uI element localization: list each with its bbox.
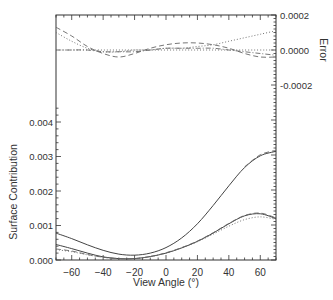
y-tick-label-left: 0.001 — [29, 220, 53, 231]
series-surface-upper-solid — [56, 151, 276, 255]
series-error-dotted — [56, 31, 276, 52]
y-tick-label-right: 0.0000 — [280, 45, 309, 56]
x-tick-label: −60 — [63, 267, 80, 278]
y-tick-label-left: 0.004 — [29, 117, 53, 128]
y-axis-label-right: Error — [318, 38, 330, 62]
series-surface-lower-solid — [56, 214, 276, 259]
y-tick-label-left: 0.002 — [29, 186, 53, 197]
y-tick-label-right: -0.0002 — [280, 80, 312, 91]
x-tick-label: 40 — [223, 267, 235, 278]
series-error-dashed — [56, 27, 276, 57]
y-tick-label-right: 0.0002 — [280, 10, 309, 21]
y-axis-label-left: Surface Contribution — [7, 144, 19, 240]
x-axis-label: View Angle (°) — [133, 276, 199, 288]
y-tick-label-left: 0.000 — [29, 255, 53, 266]
y-tick-label-left: 0.003 — [29, 151, 53, 162]
x-tick-label: −40 — [95, 267, 112, 278]
x-tick-label: 60 — [255, 267, 267, 278]
chart: −60−40−200204060View Angle (°)0.0000.001… — [0, 0, 333, 300]
series-surface-dotted — [56, 217, 276, 259]
